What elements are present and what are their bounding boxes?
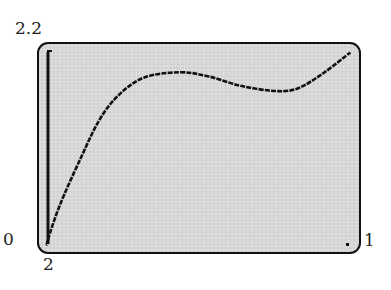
cursor-dot <box>346 243 349 246</box>
plot-area <box>0 0 391 290</box>
function-curve <box>47 52 350 244</box>
